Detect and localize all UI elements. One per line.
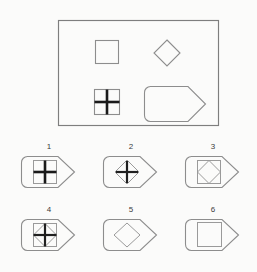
cross-icon [34,161,57,184]
square-icon [198,223,222,247]
shape-crossed-square [95,90,120,115]
option-4-figure [10,215,88,263]
pentagon-outline-icon [186,220,239,251]
shape-plain-diamond [154,40,180,66]
stimulus-panel [0,0,257,140]
option-4-label: 4 [10,205,88,214]
cross-icon [34,224,57,247]
option-3-figure [174,152,252,200]
option-1[interactable]: 1 [10,142,88,204]
option-3-label: 3 [174,142,252,151]
option-2-figure [92,152,170,200]
square-icon [198,161,221,184]
option-6[interactable]: 6 [174,205,252,267]
options-grid: 1 2 [0,140,257,272]
stimulus-panel-canvas [0,0,257,140]
puzzle-stage: 1 2 [0,0,257,272]
option-1-figure [10,152,88,200]
pentagon-outline-icon [186,157,239,188]
option-6-figure [174,215,252,263]
cross-icon [116,161,138,183]
option-5-label: 5 [92,205,170,214]
shape-plain-square [96,41,119,64]
stimulus-panel-frame [59,21,219,126]
option-1-label: 1 [10,142,88,151]
diamond-icon [114,223,140,247]
pentagon-outline-icon [104,220,157,251]
option-5[interactable]: 5 [92,205,170,267]
option-2-label: 2 [92,142,170,151]
option-3[interactable]: 3 [174,142,252,204]
option-4[interactable]: 4 [10,205,88,267]
shape-pentagon-arrow [145,87,206,122]
diamond-icon [198,161,221,184]
option-6-label: 6 [174,205,252,214]
option-5-figure [92,215,170,263]
option-2[interactable]: 2 [92,142,170,204]
